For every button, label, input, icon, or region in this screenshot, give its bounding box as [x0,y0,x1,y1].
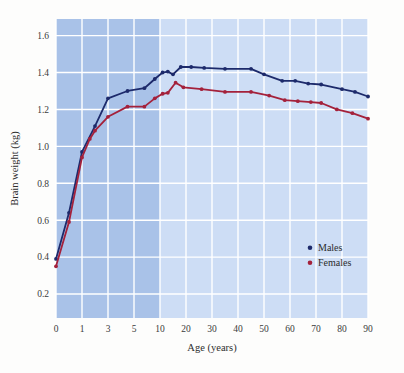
data-point [280,79,284,83]
data-point [249,90,253,94]
x-tick-label: 30 [207,324,217,334]
data-point [309,100,313,104]
x-tick-label: 3 [106,324,111,334]
x-tick-label: 5 [132,324,137,334]
data-point [153,77,157,81]
data-point [126,89,130,93]
data-point [319,83,323,87]
y-axis-tick-labels: 0.20.40.60.81.01.21.41.6 [37,31,49,299]
x-axis-title: Age (years) [187,342,237,354]
x-tick-label: 1 [80,324,85,334]
data-point [106,115,110,119]
data-point [174,81,178,85]
data-point [161,92,165,96]
legend-marker-males [308,246,313,251]
data-point [200,87,204,91]
data-point [306,82,310,86]
data-point [249,67,253,71]
data-point [267,94,271,98]
data-point [106,96,110,100]
brain-weight-line-chart: 0.20.40.60.81.01.21.41.60135102030405060… [0,0,404,373]
data-point [153,96,157,100]
data-point [366,95,370,99]
chart-canvas: 0.20.40.60.81.01.21.41.60135102030405060… [0,0,404,373]
data-point [166,91,170,95]
x-tick-label: 20 [181,324,191,334]
x-tick-label: 70 [311,324,321,334]
data-point [166,70,170,74]
x-tick-label: 60 [285,324,295,334]
legend-label-males: Males [318,242,343,253]
data-point [171,72,175,76]
x-tick-label: 0 [54,324,59,334]
data-point [88,137,92,141]
data-point [179,65,183,69]
data-point [293,79,297,83]
x-tick-label: 50 [259,324,269,334]
data-point [161,71,165,75]
data-point [296,99,300,103]
x-axis-tick-labels: 0135102030405060708090 [54,324,373,334]
data-point [223,90,227,94]
y-tick-label: 1.4 [37,68,49,78]
x-tick-label: 90 [363,324,373,334]
data-point [80,156,84,160]
data-point [340,87,344,91]
data-point [223,67,227,71]
data-point [335,108,339,112]
data-point [189,65,193,69]
data-point [283,98,287,102]
y-tick-label: 1.6 [37,31,49,41]
data-point [319,101,323,105]
data-point [126,105,130,109]
data-point [67,220,71,224]
data-point [143,105,147,109]
x-tick-label: 10 [155,324,165,334]
legend-marker-females [308,261,313,266]
data-point [202,66,206,70]
data-point [351,111,355,115]
y-tick-label: 1.0 [37,142,49,152]
data-point [54,264,58,268]
data-point [93,124,97,128]
legend-label-females: Females [318,257,351,268]
data-point [182,85,186,89]
y-tick-label: 0.8 [37,179,49,189]
x-tick-label: 80 [337,324,347,334]
y-tick-label: 0.4 [37,252,49,262]
y-tick-label: 0.6 [37,216,49,226]
y-axis-title: Brain weight (kg) [9,131,21,206]
data-point [366,117,370,121]
x-tick-label: 40 [233,324,243,334]
y-tick-label: 1.2 [37,105,49,115]
y-tick-label: 0.2 [37,289,49,299]
data-point [93,129,97,133]
data-point [262,72,266,76]
data-point [353,90,357,94]
data-point [143,86,147,90]
